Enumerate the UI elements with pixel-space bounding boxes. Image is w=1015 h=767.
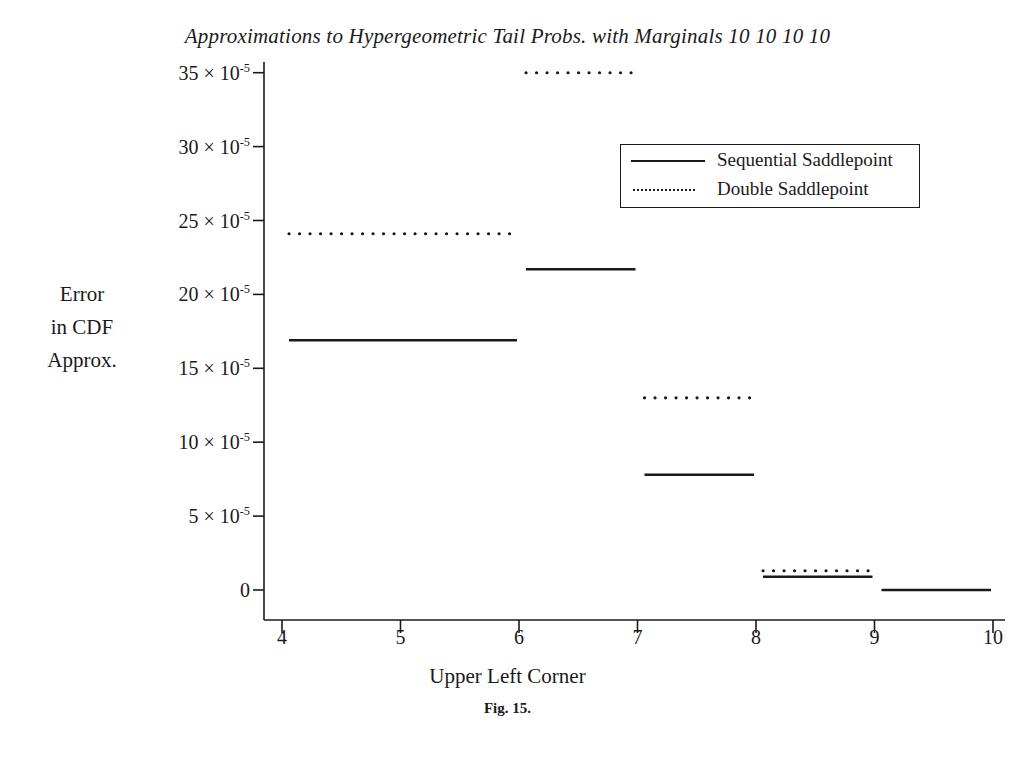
- legend-item-label: Double Saddlepoint: [717, 178, 868, 200]
- legend-item[interactable]: Double Saddlepoint: [621, 174, 919, 203]
- solid-line-icon: [631, 154, 705, 166]
- dotted-line-icon: [631, 183, 705, 195]
- x-axis-title: Upper Left Corner: [0, 664, 1015, 689]
- legend-item[interactable]: Sequential Saddlepoint: [621, 145, 919, 174]
- series-solid: [289, 269, 991, 590]
- legend-item-label: Sequential Saddlepoint: [717, 149, 893, 171]
- plot-area: [0, 0, 1015, 767]
- figure-container: Approximations to Hypergeometric Tail Pr…: [0, 0, 1015, 767]
- figure-caption: Fig. 15.: [0, 700, 1015, 717]
- legend: Sequential SaddlepointDouble Saddlepoint: [620, 144, 920, 208]
